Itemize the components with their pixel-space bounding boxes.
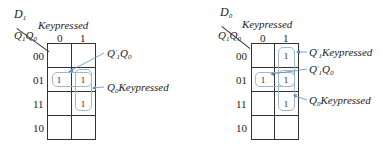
kmap-d1: D1 Keypressed Q1Q0 0 1 00 01 11 10 1 1 1…: [0, 0, 195, 155]
annotation-arrows: [0, 0, 195, 155]
kmap-d0: D0 Keypressed Q1Q0 0 1 00 01 11 10 1 1 1…: [195, 0, 389, 155]
annotation-arrows: [195, 0, 389, 155]
